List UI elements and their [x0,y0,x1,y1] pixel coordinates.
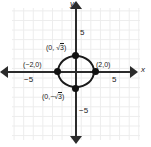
point-label-top-vertex-prefix: (0, [46,44,56,51]
point-label-bottom-vertex: (0,−√3) [42,92,64,100]
x-axis-tick-label-positive-five: 5 [112,76,116,84]
point-label-left-vertex: (−2,0) [23,61,41,68]
radical-sign-top: √3 [56,43,64,51]
point-marker-bottom-vertex [72,85,79,92]
point-marker-top-vertex [72,52,79,59]
ellipse-curve [57,55,95,88]
point-label-right-vertex: (2,0) [96,61,110,68]
coordinate-plane-figure: (0, √3) (0,−√3) (−2,0) (2,0) −5 5 5 −5 x… [0,0,151,147]
y-axis-arrow-down-icon [70,136,82,144]
x-axis-arrow-left-icon [0,66,8,78]
y-axis-tick-label-negative-five: −5 [79,107,88,115]
y-axis-name-label: y [70,0,74,8]
point-marker-right-vertex [92,68,99,75]
point-label-top-vertex-suffix: ) [64,44,66,51]
x-axis-arrow-right-icon [130,66,138,78]
point-label-top-vertex: (0, √3) [46,43,66,51]
x-axis-tick-label-negative-five: −5 [24,76,33,84]
point-label-bottom-vertex-suffix: ) [62,93,64,100]
y-axis-tick-label-positive-five: 5 [80,29,84,37]
point-label-bottom-vertex-prefix: (0,− [42,93,54,100]
point-marker-left-vertex [54,68,61,75]
radical-sign-bottom: √3 [54,92,62,100]
x-axis-name-label: x [141,66,145,74]
